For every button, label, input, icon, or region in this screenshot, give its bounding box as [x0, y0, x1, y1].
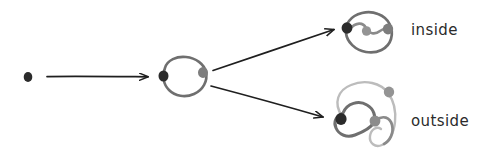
outside-figure — [335, 82, 395, 146]
arrow-loop-to-inside — [213, 30, 334, 71]
stage-middle-loop — [159, 57, 209, 96]
outside-gray-dot — [370, 115, 381, 126]
start-point-dot — [24, 72, 33, 82]
label-inside: inside — [411, 21, 458, 39]
arrow-loop-to-outside-line — [211, 86, 323, 117]
middle-loop-gray-dot — [198, 67, 208, 78]
arrow-loop-to-inside-line — [213, 30, 334, 71]
inside-figure — [342, 12, 394, 52]
stage-start-point — [24, 72, 33, 82]
topology-diagram-svg: inside outside — [0, 0, 487, 161]
label-outside: outside — [411, 112, 469, 130]
outside-top-dot — [384, 87, 394, 98]
diagram-canvas: inside outside — [0, 0, 487, 161]
arrow-loop-to-outside — [211, 86, 323, 117]
inside-dark-dot — [342, 22, 353, 34]
outside-dark-dot — [335, 113, 346, 125]
inside-gray-dot — [383, 24, 393, 35]
middle-loop-dark-dot — [159, 70, 169, 81]
inside-middle-dot — [362, 26, 371, 36]
